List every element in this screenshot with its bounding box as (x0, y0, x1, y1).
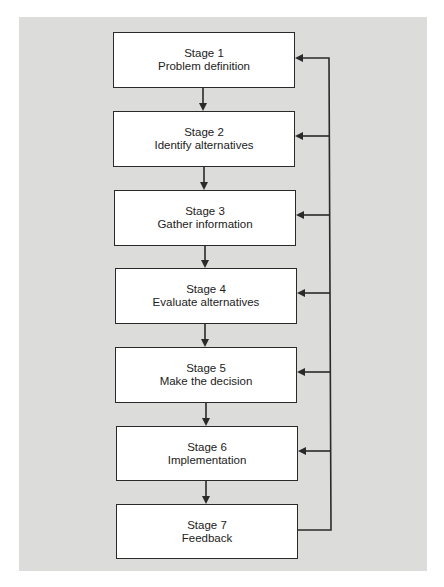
stage-5-label: Make the decision (160, 375, 253, 388)
stage-2-label: Identify alternatives (154, 139, 253, 152)
stage-1-box: Stage 1 Problem definition (113, 32, 295, 88)
stage-7-box: Stage 7 Feedback (116, 504, 298, 559)
stage-4-title: Stage 4 (186, 283, 226, 296)
stage-3-label: Gather information (157, 218, 252, 231)
stage-3-box: Stage 3 Gather information (114, 190, 296, 246)
stage-1-label: Problem definition (158, 60, 250, 73)
stage-5-box: Stage 5 Make the decision (115, 347, 297, 403)
stage-6-label: Implementation (168, 454, 247, 467)
stage-3-title: Stage 3 (185, 205, 225, 218)
stage-2-box: Stage 2 Identify alternatives (113, 111, 295, 167)
stage-6-title: Stage 6 (187, 441, 227, 454)
stage-4-box: Stage 4 Evaluate alternatives (115, 268, 297, 324)
stage-5-title: Stage 5 (186, 362, 226, 375)
stage-7-title: Stage 7 (187, 519, 227, 532)
stage-4-label: Evaluate alternatives (153, 296, 260, 309)
stage-1-title: Stage 1 (184, 47, 224, 60)
stage-2-title: Stage 2 (184, 126, 224, 139)
stage-7-label: Feedback (182, 532, 233, 545)
stage-6-box: Stage 6 Implementation (116, 426, 298, 481)
